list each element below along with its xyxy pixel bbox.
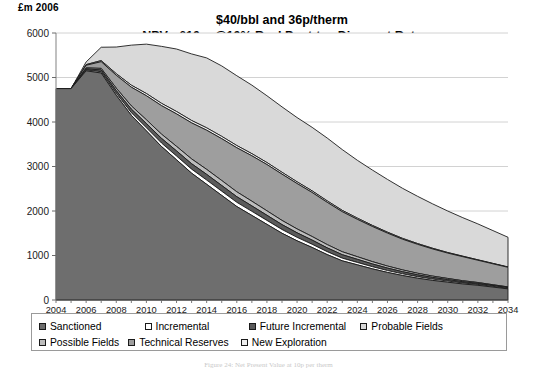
legend-row-2: Possible FieldsTechnical ReservesNew Exp… — [39, 334, 500, 350]
legend-item-technical-reserves[interactable]: Technical Reserves — [128, 337, 228, 348]
legend-swatch-icon — [39, 339, 46, 346]
legend-swatch-icon — [128, 339, 135, 346]
legend-row-1: SanctionedIncrementalFuture IncrementalP… — [39, 318, 500, 334]
legend-item-future-incremental[interactable]: Future Incremental — [249, 321, 346, 332]
y-tick-label: 3000 — [27, 161, 50, 172]
chart-legend: SanctionedIncrementalFuture IncrementalP… — [31, 313, 507, 351]
figure-caption: Figure 24: Net Present Value at 10p per … — [0, 361, 537, 369]
legend-label: New Exploration — [252, 337, 327, 348]
legend-label: Incremental — [156, 321, 210, 332]
legend-label: Sanctioned — [50, 321, 102, 332]
legend-swatch-icon — [249, 323, 256, 330]
legend-label: Possible Fields — [50, 337, 119, 348]
y-tick-label: 6000 — [27, 28, 50, 39]
legend-item-sanctioned[interactable]: Sanctioned — [39, 321, 102, 332]
legend-swatch-icon — [145, 323, 152, 330]
legend-label: Technical Reserves — [139, 337, 228, 348]
legend-item-probable-fields[interactable]: Probable Fields — [360, 321, 443, 332]
legend-item-new-exploration[interactable]: New Exploration — [241, 337, 327, 348]
legend-label: Probable Fields — [371, 321, 443, 332]
y-tick-label: 0 — [43, 295, 49, 306]
y-tick-label: 2000 — [27, 206, 50, 217]
legend-item-possible-fields[interactable]: Possible Fields — [39, 337, 119, 348]
y-tick-label: 5000 — [27, 72, 50, 83]
legend-label: Future Incremental — [260, 321, 346, 332]
legend-item-incremental[interactable]: Incremental — [145, 321, 210, 332]
legend-swatch-icon — [241, 339, 248, 346]
y-tick-label: 1000 — [27, 250, 50, 261]
chart-figure: £m 2006 $40/bbl and 36p/therm NPV : £10m… — [0, 0, 537, 373]
y-tick-label: 4000 — [27, 117, 50, 128]
legend-swatch-icon — [360, 323, 367, 330]
legend-swatch-icon — [39, 323, 46, 330]
